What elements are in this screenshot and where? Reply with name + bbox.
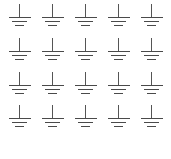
ground-bar-3-icon xyxy=(15,126,24,127)
ground-bar-1-icon xyxy=(108,118,130,119)
ground-bar-1-icon xyxy=(141,17,163,18)
ground-stem-icon xyxy=(118,105,119,118)
ground-bar-2-icon xyxy=(12,21,27,22)
ground-symbol-r2c3 xyxy=(69,38,102,72)
ground-stem-icon xyxy=(19,105,20,118)
ground-bar-1-icon xyxy=(108,51,130,52)
ground-bar-2-icon xyxy=(12,89,27,90)
ground-symbol-r1c5 xyxy=(135,4,168,38)
ground-bar-1-icon xyxy=(141,51,163,52)
ground-bar-1-icon xyxy=(108,17,130,18)
ground-bar-1-icon xyxy=(108,85,130,86)
ground-bar-3-icon xyxy=(15,59,24,60)
ground-bar-2-icon xyxy=(78,122,93,123)
ground-bar-3-icon xyxy=(114,93,123,94)
ground-bar-1-icon xyxy=(9,51,31,52)
ground-bar-2-icon xyxy=(111,122,126,123)
ground-symbol-r3c5 xyxy=(135,72,168,106)
ground-bar-2-icon xyxy=(78,21,93,22)
ground-bar-3-icon xyxy=(81,59,90,60)
ground-symbol-r3c3 xyxy=(69,72,102,106)
ground-bar-2-icon xyxy=(45,89,60,90)
ground-bar-2-icon xyxy=(144,122,159,123)
ground-symbol-r1c4 xyxy=(102,4,135,38)
ground-bar-2-icon xyxy=(12,55,27,56)
ground-bar-2-icon xyxy=(144,89,159,90)
ground-stem-icon xyxy=(52,4,53,17)
ground-bar-3-icon xyxy=(81,93,90,94)
ground-symbol-r4c3 xyxy=(69,105,102,139)
ground-symbol-r2c1 xyxy=(3,38,36,72)
ground-symbol-grid xyxy=(0,0,171,159)
ground-bar-2-icon xyxy=(144,21,159,22)
ground-bar-3-icon xyxy=(114,126,123,127)
ground-bar-3-icon xyxy=(48,25,57,26)
ground-stem-icon xyxy=(85,105,86,118)
ground-bar-3-icon xyxy=(147,25,156,26)
ground-bar-1-icon xyxy=(141,118,163,119)
ground-bar-2-icon xyxy=(45,55,60,56)
ground-stem-icon xyxy=(151,4,152,17)
ground-symbol-r2c4 xyxy=(102,38,135,72)
ground-bar-1-icon xyxy=(75,85,97,86)
ground-bar-1-icon xyxy=(42,17,64,18)
ground-stem-icon xyxy=(118,4,119,17)
ground-bar-3-icon xyxy=(147,126,156,127)
ground-bar-3-icon xyxy=(81,25,90,26)
ground-bar-1-icon xyxy=(75,51,97,52)
ground-bar-3-icon xyxy=(48,59,57,60)
ground-bar-2-icon xyxy=(12,122,27,123)
ground-bar-2-icon xyxy=(111,89,126,90)
ground-bar-1-icon xyxy=(9,17,31,18)
ground-bar-1-icon xyxy=(75,17,97,18)
ground-bar-2-icon xyxy=(111,55,126,56)
ground-bar-3-icon xyxy=(114,25,123,26)
ground-symbol-r4c4 xyxy=(102,105,135,139)
ground-bar-3-icon xyxy=(81,126,90,127)
ground-bar-2-icon xyxy=(111,21,126,22)
ground-stem-icon xyxy=(19,4,20,17)
ground-stem-icon xyxy=(52,72,53,85)
ground-bar-1-icon xyxy=(42,85,64,86)
ground-stem-icon xyxy=(151,72,152,85)
ground-symbol-r4c2 xyxy=(36,105,69,139)
ground-stem-icon xyxy=(19,72,20,85)
ground-stem-icon xyxy=(19,38,20,51)
ground-bar-3-icon xyxy=(147,59,156,60)
ground-bar-2-icon xyxy=(78,55,93,56)
ground-symbol-r2c2 xyxy=(36,38,69,72)
ground-symbol-r4c1 xyxy=(3,105,36,139)
ground-bar-3-icon xyxy=(114,59,123,60)
ground-bar-3-icon xyxy=(15,25,24,26)
ground-stem-icon xyxy=(151,38,152,51)
ground-symbol-r1c3 xyxy=(69,4,102,38)
ground-symbol-r3c4 xyxy=(102,72,135,106)
ground-stem-icon xyxy=(85,4,86,17)
ground-stem-icon xyxy=(85,72,86,85)
ground-stem-icon xyxy=(118,38,119,51)
ground-bar-3-icon xyxy=(48,126,57,127)
ground-stem-icon xyxy=(52,105,53,118)
ground-bar-2-icon xyxy=(45,122,60,123)
ground-bar-1-icon xyxy=(75,118,97,119)
ground-bar-1-icon xyxy=(42,118,64,119)
ground-bar-3-icon xyxy=(147,93,156,94)
ground-symbol-r3c2 xyxy=(36,72,69,106)
ground-symbol-r1c1 xyxy=(3,4,36,38)
ground-symbol-r3c1 xyxy=(3,72,36,106)
ground-stem-icon xyxy=(52,38,53,51)
ground-bar-2-icon xyxy=(78,89,93,90)
ground-stem-icon xyxy=(118,72,119,85)
ground-bar-1-icon xyxy=(42,51,64,52)
ground-bar-1-icon xyxy=(9,85,31,86)
ground-bar-1-icon xyxy=(141,85,163,86)
ground-bar-2-icon xyxy=(45,21,60,22)
ground-bar-2-icon xyxy=(144,55,159,56)
ground-bar-1-icon xyxy=(9,118,31,119)
ground-symbol-r2c5 xyxy=(135,38,168,72)
ground-bar-3-icon xyxy=(48,93,57,94)
ground-stem-icon xyxy=(151,105,152,118)
ground-stem-icon xyxy=(85,38,86,51)
ground-symbol-r1c2 xyxy=(36,4,69,38)
ground-bar-3-icon xyxy=(15,93,24,94)
